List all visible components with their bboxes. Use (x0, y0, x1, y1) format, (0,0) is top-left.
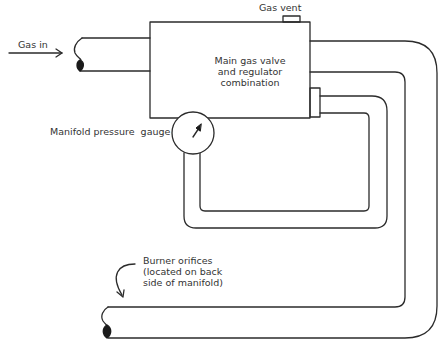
gauge-label: Manifold pressure gauge (50, 126, 170, 137)
gauge-port (310, 88, 320, 117)
main-valve-label-line3: combination (190, 77, 310, 88)
burner-label-line1: Burner orifices (143, 255, 212, 266)
main-valve-label-line2: and regulator (190, 66, 310, 77)
gas-system-diagram (0, 0, 441, 343)
gas-in-label: Gas in (18, 39, 48, 50)
burner-label-line3: side of manifold) (143, 277, 223, 288)
manifold-pressure-gauge-icon (172, 112, 214, 154)
gas-in-arrow-icon (9, 49, 62, 57)
pipe-break-icon (103, 325, 111, 338)
main-valve-label-line1: Main gas valve (190, 55, 310, 66)
burner-pointer-arrow-icon (116, 264, 135, 297)
gas-vent-port (283, 16, 300, 22)
burner-label-line2: (located on back (143, 266, 222, 277)
pipe-break-icon (77, 60, 83, 71)
gas-vent-label: Gas vent (259, 2, 301, 13)
burner-pipe-end (102, 307, 111, 338)
inlet-pipe (74, 38, 150, 71)
gauge-pipe-inner-wall (200, 113, 369, 211)
gauge-pipe-outer-wall (184, 96, 387, 228)
